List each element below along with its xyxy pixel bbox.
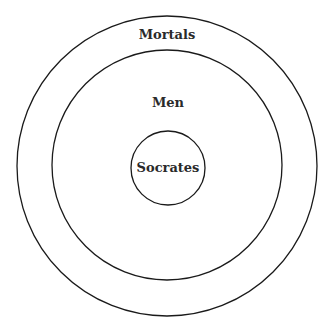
socrates-label: Socrates (137, 160, 200, 175)
men-label: Men (152, 95, 185, 110)
euler-diagram: Mortals Men Socrates (0, 0, 329, 331)
mortals-label: Mortals (139, 27, 196, 42)
